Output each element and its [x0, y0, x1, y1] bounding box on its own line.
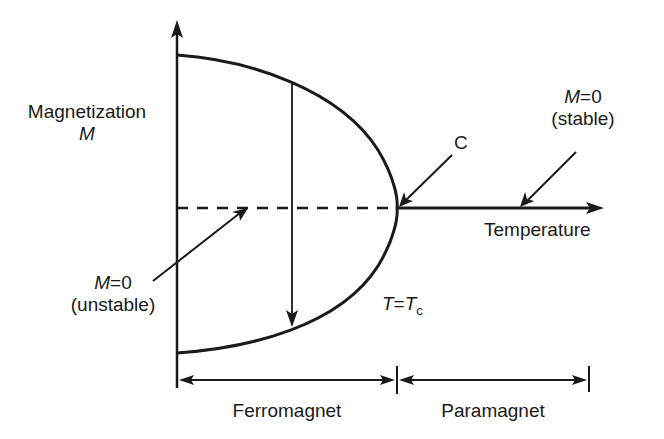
region-paramagnet-label: Paramagnet	[441, 400, 545, 422]
stable-desc: (stable)	[551, 108, 614, 130]
y-axis-label-name: Magnetization	[28, 101, 146, 123]
unstable-desc: (unstable)	[71, 294, 156, 316]
region-ferromagnet-label: Ferromagnet	[233, 400, 342, 422]
critical-temperature-label: T=Tc	[382, 293, 423, 317]
unstable-eq: =0	[110, 272, 132, 293]
unstable-branch-label: M=0 (unstable)	[71, 272, 156, 316]
tc-eq: =	[394, 293, 405, 314]
region-ranges	[179, 366, 589, 394]
stable-branch-label: M=0 (stable)	[551, 86, 614, 130]
tc-rhs: T	[405, 293, 417, 314]
temperature-axis-label: Temperature	[484, 219, 591, 241]
y-axis-label: Magnetization M	[28, 101, 146, 145]
y-axis-label-symbol: M	[28, 123, 146, 145]
temperature-axis	[397, 202, 604, 214]
transition-line	[286, 84, 298, 327]
critical-point-pointer	[399, 155, 452, 207]
unstable-var: M	[94, 272, 110, 293]
tc-lhs: T	[382, 293, 394, 314]
y-axis	[171, 20, 183, 388]
critical-point-label: C	[454, 132, 468, 154]
tc-sub: c	[416, 303, 423, 318]
unstable-pointer	[153, 208, 248, 281]
stable-eq: =0	[580, 86, 602, 107]
stable-pointer	[520, 152, 576, 207]
stable-var: M	[564, 86, 580, 107]
magnetization-curve	[177, 55, 397, 353]
